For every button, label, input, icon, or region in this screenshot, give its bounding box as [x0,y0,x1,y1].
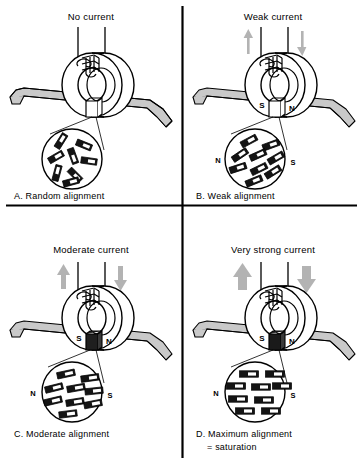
panel-A-toroid-core [62,53,134,117]
panel-C-circle-pole-left: N [30,389,35,398]
panel-D-caption-line2: = saturation [207,442,257,452]
panel-B-caption: B. Weak alignment [196,191,275,201]
panel-B-circle-pole-right: S [290,158,295,167]
panel-D-circle-pole-left: N [213,389,218,398]
panel-C-pole-left: S [76,334,82,343]
panel-B-title: Weak current [244,11,303,22]
panel-D-title: Very strong current [231,244,315,255]
panel-D-caption: D. Maximum alignment [196,429,292,439]
panel-C-circle-pole-right: S [107,391,112,400]
diagram-canvas: No current [0,0,363,464]
panel-A-caption: A. Random alignment [14,191,105,201]
panel-B-pole-left: S [259,101,265,110]
panel-A-title: No current [68,11,115,22]
panel-B-pole-right: N [289,104,295,113]
panel-C-caption: C. Moderate alignment [14,429,110,439]
panel-B-toroid-core [245,53,317,117]
panel-D-pole-right: N [289,337,295,346]
panel-D-pole-left: S [259,334,265,343]
panel-D-circle-pole-right: S [290,391,295,400]
panel-C-title: Moderate current [53,244,129,255]
panel-B-circle-pole-left: N [215,156,220,165]
panel-C-toroid-core [62,286,134,350]
panel-D-toroid-core [245,286,317,350]
panel-C-pole-right: N [106,337,112,346]
panel-A-domain-circle [42,129,102,189]
figure-container: No current [0,0,363,464]
